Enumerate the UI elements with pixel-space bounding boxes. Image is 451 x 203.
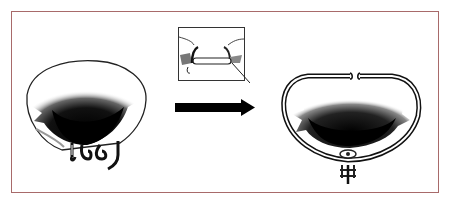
arrow-right-icon	[175, 99, 257, 117]
valve-after-panel: Valve with annuloplasty ring	[278, 70, 428, 188]
transition-arrow: Transition arrow	[175, 99, 257, 117]
suture-detail-inset: Suture detail inset	[178, 27, 250, 83]
annuloplasty-ring-icon	[278, 70, 428, 188]
valve-dilated-annulus-icon	[22, 55, 152, 175]
suture-detail-icon	[178, 27, 250, 83]
valve-before-panel: Valve before repair	[22, 55, 152, 175]
